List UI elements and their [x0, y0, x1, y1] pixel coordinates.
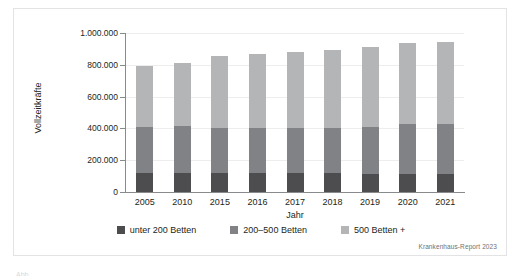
y-axis-tick-label: 400.000 [52, 124, 118, 133]
bar-segment[interactable] [249, 54, 266, 128]
bar-segment[interactable] [211, 173, 228, 192]
bar-segment[interactable] [399, 124, 416, 173]
bar-segment[interactable] [136, 66, 153, 126]
bar-segment[interactable] [211, 56, 228, 129]
y-axis-tick [120, 97, 125, 98]
y-axis-tick [120, 128, 125, 129]
y-axis-tick [120, 192, 125, 193]
legend-label: 200–500 Betten [243, 225, 307, 235]
legend-label: unter 200 Betten [130, 225, 197, 235]
bar-segment[interactable] [437, 42, 454, 124]
x-axis-tick-label: 2021 [426, 197, 464, 207]
y-axis-tick [120, 65, 125, 66]
x-axis-tick-label: 2016 [238, 197, 276, 207]
y-axis-tick-labels: 0200.000400.000600.000800.0001.000.000 [36, 33, 118, 193]
bar-segment[interactable] [437, 174, 454, 192]
legend-swatch-icon [341, 226, 349, 234]
x-axis-tick-label: 2018 [314, 197, 352, 207]
gridline [126, 33, 464, 34]
bar-segment[interactable] [249, 173, 266, 192]
bar-segment[interactable] [362, 174, 379, 192]
x-axis-line [125, 192, 465, 193]
y-axis-tick-label: 1.000.000 [52, 29, 118, 38]
bar-segment[interactable] [324, 128, 341, 174]
bar-segment[interactable] [174, 126, 191, 173]
bar-segment[interactable] [399, 43, 416, 124]
y-axis-tick-label: 800.000 [52, 61, 118, 70]
bar-group[interactable] [437, 42, 454, 192]
x-axis-title: Jahr [126, 210, 464, 220]
bar-group[interactable] [249, 54, 266, 192]
bar-group[interactable] [174, 63, 191, 192]
bar-segment[interactable] [136, 127, 153, 173]
bar-segment[interactable] [324, 50, 341, 128]
bar-group[interactable] [287, 52, 304, 192]
chart-legend: unter 200 Betten200–500 Betten500 Betten… [14, 225, 508, 235]
bar-segment[interactable] [324, 173, 341, 192]
y-axis-tick [120, 33, 125, 34]
bar-segment[interactable] [136, 173, 153, 192]
legend-swatch-icon [117, 226, 125, 234]
bar-segment[interactable] [399, 174, 416, 192]
bar-segment[interactable] [287, 173, 304, 192]
legend-item[interactable]: 500 Betten + [341, 225, 405, 235]
x-axis-tick-label: 2005 [126, 197, 164, 207]
bar-segment[interactable] [249, 128, 266, 173]
y-axis-tick-label: 200.000 [52, 156, 118, 165]
bar-segment[interactable] [437, 124, 454, 174]
legend-item[interactable]: unter 200 Betten [117, 225, 197, 235]
y-axis-tick [120, 160, 125, 161]
plot-area [126, 33, 464, 192]
bar-segment[interactable] [362, 127, 379, 174]
bar-group[interactable] [211, 56, 228, 192]
source-note: Krankenhaus-Report 2023 [418, 243, 497, 250]
bar-group[interactable] [399, 43, 416, 192]
bar-segment[interactable] [174, 173, 191, 192]
legend-label: 500 Betten + [354, 225, 405, 235]
x-axis-tick-label: 2010 [163, 197, 201, 207]
bar-segment[interactable] [287, 52, 304, 128]
legend-swatch-icon [230, 226, 238, 234]
bar-group[interactable] [136, 66, 153, 192]
chart-figure: Vollzeitkräfte 0200.000400.000600.000800… [13, 8, 507, 256]
x-axis-tick-label: 2020 [389, 197, 427, 207]
bar-group[interactable] [362, 47, 379, 192]
legend-item[interactable]: 200–500 Betten [230, 225, 307, 235]
y-axis-tick-label: 600.000 [52, 93, 118, 102]
x-axis-tick-label: 2015 [201, 197, 239, 207]
bar-segment[interactable] [211, 128, 228, 173]
x-axis-tick-label: 2017 [276, 197, 314, 207]
bar-segment[interactable] [174, 63, 191, 126]
caption-sliver: Abb. ... [16, 271, 196, 276]
x-axis-tick-label: 2019 [351, 197, 389, 207]
y-axis-tick-label: 0 [52, 188, 118, 197]
bar-segment[interactable] [362, 47, 379, 127]
bar-group[interactable] [324, 50, 341, 192]
bar-segment[interactable] [287, 128, 304, 173]
